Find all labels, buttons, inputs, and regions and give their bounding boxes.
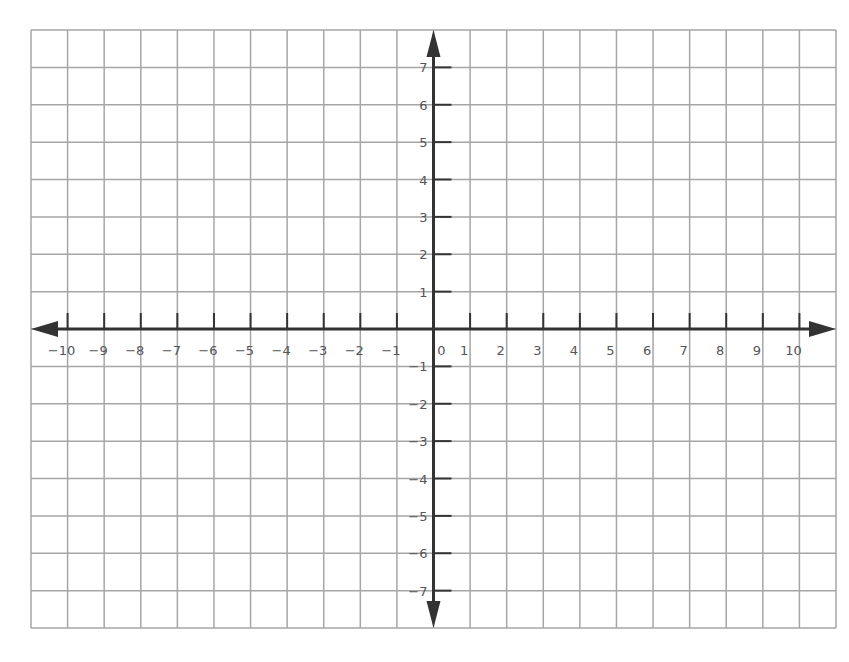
y-tick-label: 7 <box>419 60 427 75</box>
x-tick-label: 3 <box>533 343 541 358</box>
x-tick-label: −2 <box>345 343 364 358</box>
x-tick-label: 10 <box>785 343 802 358</box>
x-tick-label: 8 <box>716 343 724 358</box>
x-tick-label: 9 <box>753 343 761 358</box>
x-tick-label: −6 <box>198 343 217 358</box>
y-tick-label: −2 <box>408 397 427 412</box>
y-tick-label: 3 <box>419 210 427 225</box>
y-tick-label: 6 <box>419 98 427 113</box>
x-tick-label: −3 <box>308 343 327 358</box>
x-axis-left-arrow-icon <box>31 321 58 337</box>
x-tick-label: −1 <box>381 343 400 358</box>
y-tick-label: −6 <box>408 546 427 561</box>
x-tick-label: −5 <box>235 343 254 358</box>
x-tick-label: 5 <box>606 343 614 358</box>
x-tick-label: 1 <box>460 343 468 358</box>
x-tick-label: 0 <box>437 343 445 358</box>
x-tick-label: −4 <box>272 343 291 358</box>
axes <box>31 30 836 628</box>
x-tick-label: −7 <box>162 343 181 358</box>
y-tick-label: 4 <box>419 173 427 188</box>
coordinate-plane: −10−9−8−7−6−5−4−3−2−1012345678910 765432… <box>0 0 849 662</box>
y-tick-label: −1 <box>408 359 427 374</box>
y-tick-label: −7 <box>408 584 427 599</box>
x-tick-label: −9 <box>89 343 108 358</box>
y-tick-label: −4 <box>408 472 427 487</box>
x-axis-labels: −10−9−8−7−6−5−4−3−2−1012345678910 <box>48 343 802 358</box>
y-tick-label: 5 <box>419 135 427 150</box>
x-axis-right-arrow-icon <box>809 321 836 337</box>
y-tick-label: 1 <box>419 285 427 300</box>
y-tick-label: 2 <box>419 247 427 262</box>
x-tick-label: 4 <box>570 343 578 358</box>
y-tick-label: −3 <box>408 434 427 449</box>
x-tick-label: 6 <box>643 343 651 358</box>
y-axis-up-arrow-icon <box>427 30 441 57</box>
x-tick-label: 7 <box>679 343 687 358</box>
y-tick-label: −5 <box>408 509 427 524</box>
x-tick-label: 2 <box>497 343 505 358</box>
y-axis-down-arrow-icon <box>427 601 441 628</box>
x-tick-label: −10 <box>48 343 75 358</box>
x-tick-label: −8 <box>125 343 144 358</box>
